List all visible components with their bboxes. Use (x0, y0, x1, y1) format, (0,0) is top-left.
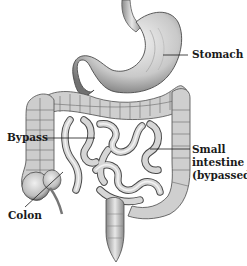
small-intestine-label-line1: Small (192, 143, 247, 156)
small-intestine-label-line2: intestine (192, 156, 247, 169)
bypass-label: Bypass (7, 131, 48, 144)
small-intestine-label: Small intestine (bypassed) (192, 143, 247, 182)
stomach-label: Stomach (192, 48, 243, 61)
ascending-colon (22, 94, 62, 214)
rectum (106, 197, 124, 262)
esophagus (122, 0, 142, 32)
small-intestine-label-line3: (bypassed) (192, 169, 247, 182)
stomach (73, 12, 182, 95)
small-intestine (65, 120, 160, 202)
anatomy-diagram: Stomach Bypass Small intestine (bypassed… (0, 0, 247, 266)
colon-label: Colon (8, 209, 42, 222)
